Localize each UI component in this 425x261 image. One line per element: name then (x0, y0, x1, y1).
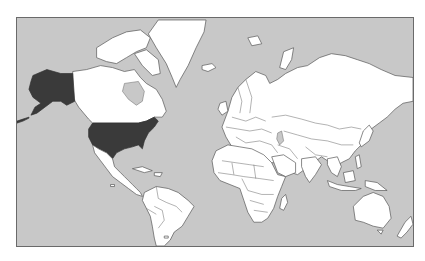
svalbard (248, 36, 262, 46)
alaska (29, 70, 75, 116)
hispaniola (154, 173, 162, 177)
tasmania (377, 230, 383, 234)
indonesia (327, 181, 361, 191)
world-map-frame (16, 17, 414, 247)
australia (353, 192, 391, 228)
world-map (17, 18, 413, 246)
novaya-zemlya (280, 48, 294, 70)
new-guinea (365, 181, 387, 191)
india (302, 157, 322, 183)
new-zealand (397, 216, 413, 238)
borneo (343, 171, 355, 183)
baffin-island (134, 50, 160, 76)
hawaii (111, 185, 115, 187)
iceland (202, 64, 216, 72)
united-kingdom (218, 101, 228, 115)
philippines (355, 155, 361, 169)
greenland (148, 20, 206, 87)
aleutian-islands (17, 117, 29, 123)
falkland-islands (164, 236, 168, 238)
madagascar (280, 194, 288, 210)
cuba (132, 167, 152, 173)
